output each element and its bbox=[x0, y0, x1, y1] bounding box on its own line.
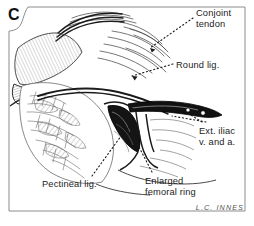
label-pectineal-lig: Pectineal lig. bbox=[42, 179, 97, 190]
anatomical-illustration bbox=[0, 0, 254, 226]
external-iliac-vessels bbox=[128, 101, 222, 117]
leader-round-lig bbox=[132, 64, 173, 76]
label-conjoint-tendon: Conjoint tendon bbox=[196, 8, 231, 29]
leader-conjoint-tendon bbox=[150, 18, 193, 48]
label-ext-iliac: Ext. iliac v. and a. bbox=[199, 126, 235, 147]
figure-panel: C Conjoint tendon Round lig. Ext. iliac … bbox=[0, 0, 254, 226]
panel-letter: C bbox=[8, 6, 20, 24]
artist-signature: L.C. INNES bbox=[196, 203, 244, 212]
label-enlarged-femoral-ring: Enlarged femoral ring bbox=[145, 176, 196, 197]
label-round-lig: Round lig. bbox=[176, 60, 219, 71]
pectineal-tissue-field bbox=[20, 83, 114, 184]
